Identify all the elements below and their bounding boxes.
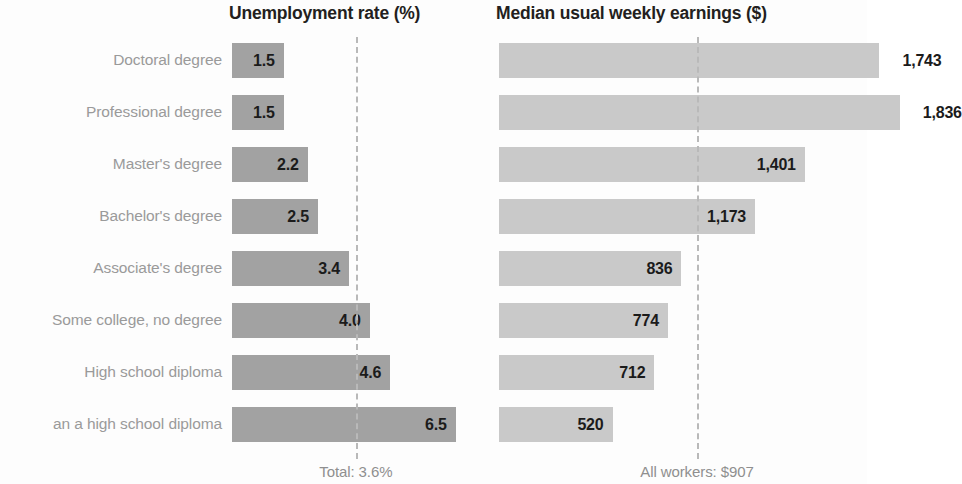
- bar-value-label: 836: [646, 251, 672, 286]
- bar: 520: [499, 407, 613, 442]
- bar-value-label: 6.5: [425, 407, 447, 442]
- bar: 1,173: [499, 199, 755, 234]
- bar-value-label: 4.6: [360, 355, 382, 390]
- category-label: High school diploma: [0, 363, 222, 381]
- bar: 4.0: [232, 303, 370, 338]
- bar: 2.5: [232, 199, 318, 234]
- reference-line-all-workers-earnings: [697, 37, 699, 459]
- bar-value-label: 1,173: [707, 199, 746, 234]
- reference-caption-total-unemployment: Total: 3.6%: [319, 463, 392, 480]
- bar-value-label: 520: [577, 407, 603, 442]
- bar: 836: [499, 251, 681, 286]
- bar: 1,836: [499, 95, 900, 130]
- bar: 1.5: [232, 95, 284, 130]
- bar: 4.6: [232, 355, 390, 390]
- bar: 774: [499, 303, 668, 338]
- bar: 2.2: [232, 147, 308, 182]
- bar-value-label: 1,836: [923, 95, 962, 130]
- bar-value-label: 1,743: [902, 43, 941, 78]
- bar-value-label: 3.4: [318, 251, 340, 286]
- bar: 1,743: [499, 43, 879, 78]
- category-label: an a high school diploma: [0, 415, 222, 433]
- bar-value-label: 2.5: [287, 199, 309, 234]
- category-label: Some college, no degree: [0, 311, 222, 329]
- category-label: Associate's degree: [0, 259, 222, 277]
- category-label: Master's degree: [0, 155, 222, 173]
- panel-title-unemployment: Unemployment rate (%): [229, 3, 420, 24]
- category-label: Professional degree: [0, 103, 222, 121]
- panel-title-earnings: Median usual weekly earnings ($): [496, 3, 767, 24]
- bar: 712: [499, 355, 654, 390]
- bar: 3.4: [232, 251, 349, 286]
- category-label: Bachelor's degree: [0, 207, 222, 225]
- bar-value-label: 2.2: [277, 147, 299, 182]
- bar: 1,401: [499, 147, 805, 182]
- bar-value-label: 1,401: [757, 147, 796, 182]
- bar-value-label: 712: [619, 355, 645, 390]
- bar: 1.5: [232, 43, 284, 78]
- bar-value-label: 774: [633, 303, 659, 338]
- reference-caption-all-workers-earnings: All workers: $907: [640, 463, 753, 480]
- bar-value-label: 1.5: [253, 43, 275, 78]
- category-label: Doctoral degree: [0, 51, 222, 69]
- bar-value-label: 1.5: [253, 95, 275, 130]
- bar: 6.5: [232, 407, 456, 442]
- reference-line-total-unemployment: [356, 37, 358, 459]
